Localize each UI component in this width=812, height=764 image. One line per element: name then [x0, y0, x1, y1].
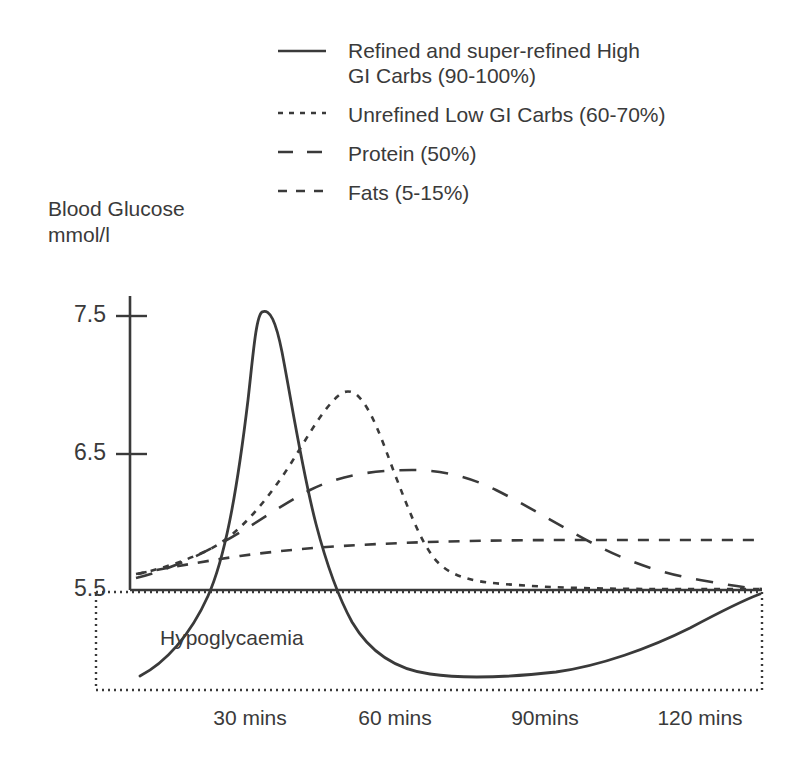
- series-line-high-gi-carbs: [140, 311, 760, 677]
- series-line-low-gi-carbs: [138, 392, 760, 590]
- hypoglycaemia-label: Hypoglycaemia: [160, 626, 304, 650]
- series-line-fats: [136, 540, 762, 574]
- y-tick-label-7-5: 7.5: [36, 301, 106, 328]
- x-tick-label-60-mins: 60 mins: [325, 706, 465, 730]
- y-tick-label-5-5: 5.5: [36, 575, 106, 602]
- y-tick-label-6-5: 6.5: [36, 439, 106, 466]
- glucose-response-chart: Refined and super-refined High GI Carbs …: [0, 0, 812, 764]
- x-tick-label-30-mins: 30 mins: [180, 706, 320, 730]
- plot-area: [0, 0, 812, 764]
- x-tick-label-90-mins: 90mins: [475, 706, 615, 730]
- x-tick-label-120-mins: 120 mins: [630, 706, 770, 730]
